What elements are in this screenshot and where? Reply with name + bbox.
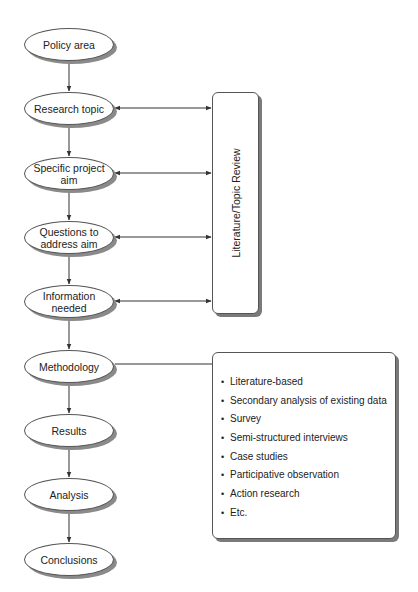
node-policy-area: Policy area: [24, 28, 114, 61]
node-label: Information needed: [43, 290, 96, 314]
review-box-label: Literature/Topic Review: [230, 148, 242, 257]
node-label: Methodology: [39, 361, 99, 373]
node-results: Results: [24, 414, 114, 447]
node-analysis: Analysis: [24, 478, 114, 511]
node-label: Policy area: [43, 39, 95, 51]
bullet-icon: •: [221, 392, 230, 411]
methods-list-item: •Secondary analysis of existing data: [221, 392, 387, 411]
research-process-diagram: Policy area Research topic Specific proj…: [0, 0, 418, 592]
bullet-icon: •: [221, 429, 230, 448]
node-label: Conclusions: [40, 554, 97, 566]
review-arrows: [115, 108, 211, 301]
bullet-icon: •: [221, 466, 230, 485]
method-label: Etc.: [230, 507, 247, 518]
methods-list-item: •Survey: [221, 410, 387, 429]
methods-box: •Literature-based •Secondary analysis of…: [212, 352, 396, 539]
methods-list-item: •Participative observation: [221, 466, 387, 485]
bullet-icon: •: [221, 410, 230, 429]
method-label: Participative observation: [230, 469, 339, 480]
method-label: Action research: [230, 488, 299, 499]
node-conclusions: Conclusions: [24, 543, 114, 576]
node-label: Results: [51, 425, 86, 437]
methods-list-item: •Etc.: [221, 504, 387, 523]
methods-list-item: •Case studies: [221, 448, 387, 467]
method-label: Literature-based: [230, 376, 303, 387]
node-label: Questions to address aim: [40, 226, 99, 250]
node-questions-to-address-aim: Questions to address aim: [24, 221, 114, 254]
bullet-icon: •: [221, 448, 230, 467]
method-label: Survey: [230, 413, 261, 424]
node-information-needed: Information needed: [24, 285, 114, 318]
literature-review-box: Literature/Topic Review: [212, 92, 259, 314]
methods-list-item: •Literature-based: [221, 373, 387, 392]
bullet-icon: •: [221, 373, 230, 392]
method-label: Case studies: [230, 451, 288, 462]
methods-list-item: •Semi-structured interviews: [221, 429, 387, 448]
node-research-topic: Research topic: [24, 92, 114, 125]
bullet-icon: •: [221, 485, 230, 504]
node-label: Analysis: [49, 489, 88, 501]
node-label: Specific project aim: [33, 162, 104, 186]
methods-list: •Literature-based •Secondary analysis of…: [221, 373, 387, 523]
methods-list-item: •Action research: [221, 485, 387, 504]
method-label: Semi-structured interviews: [230, 432, 348, 443]
bullet-icon: •: [221, 504, 230, 523]
node-label: Research topic: [34, 103, 104, 115]
node-methodology: Methodology: [24, 350, 114, 383]
method-label: Secondary analysis of existing data: [230, 395, 387, 406]
node-specific-project-aim: Specific project aim: [24, 157, 114, 190]
